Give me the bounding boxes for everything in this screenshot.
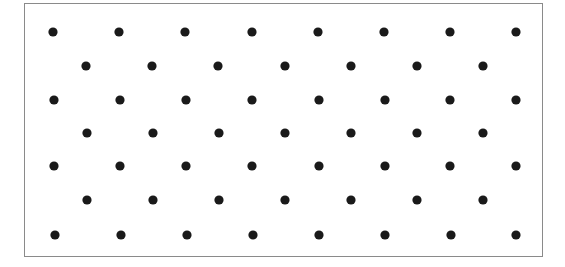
dot	[182, 230, 191, 239]
dot	[412, 128, 421, 137]
dot	[445, 27, 454, 36]
dot	[181, 95, 190, 104]
dot	[148, 128, 157, 137]
dot	[82, 128, 91, 137]
dot	[115, 95, 124, 104]
dot	[346, 195, 355, 204]
dot	[247, 95, 256, 104]
dot	[511, 95, 520, 104]
dot	[82, 195, 91, 204]
dot	[48, 27, 57, 36]
dot	[180, 27, 189, 36]
dot	[247, 161, 256, 170]
dot	[478, 195, 487, 204]
dot	[213, 61, 222, 70]
dot	[511, 27, 520, 36]
dot	[81, 61, 90, 70]
dot	[148, 195, 157, 204]
dot	[313, 27, 322, 36]
dot	[114, 27, 123, 36]
dot	[314, 95, 323, 104]
dot	[478, 61, 487, 70]
dot	[214, 195, 223, 204]
dot	[412, 61, 421, 70]
dot	[346, 61, 355, 70]
dot	[511, 230, 520, 239]
dot	[247, 27, 256, 36]
dot	[380, 95, 389, 104]
dot	[511, 161, 520, 170]
dot	[50, 230, 59, 239]
dot	[346, 128, 355, 137]
dot	[379, 27, 388, 36]
dot-lattice	[0, 0, 565, 267]
dot	[412, 195, 421, 204]
dot	[214, 128, 223, 137]
dot	[280, 195, 289, 204]
dot	[380, 230, 389, 239]
dot	[314, 230, 323, 239]
dot	[280, 61, 289, 70]
dot	[314, 161, 323, 170]
dot	[445, 95, 454, 104]
dot	[280, 128, 289, 137]
dot	[380, 161, 389, 170]
dot	[115, 161, 124, 170]
dot	[49, 161, 58, 170]
dot	[248, 230, 257, 239]
dot	[445, 161, 454, 170]
dot	[478, 128, 487, 137]
dot	[446, 230, 455, 239]
dot	[49, 95, 58, 104]
dot	[116, 230, 125, 239]
dot	[181, 161, 190, 170]
dot	[147, 61, 156, 70]
